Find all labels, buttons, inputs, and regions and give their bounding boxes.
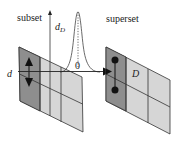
subset-grid xyxy=(19,47,83,132)
d-left-label: d xyxy=(7,68,13,79)
superset-label: superset xyxy=(106,13,139,24)
dot-icon xyxy=(112,57,119,64)
superset-grid xyxy=(106,47,170,134)
D-cell-label: D xyxy=(131,68,140,79)
gaussian-curve xyxy=(60,12,100,72)
zero-label: 0 xyxy=(75,60,80,71)
dot-icon xyxy=(112,87,119,94)
axis-arrow-icon xyxy=(48,10,52,15)
d-D-label: dD xyxy=(55,21,65,34)
subset-superset-diagram: subset superset dD 0 d D xyxy=(0,0,179,145)
subset-label: subset xyxy=(17,12,42,23)
